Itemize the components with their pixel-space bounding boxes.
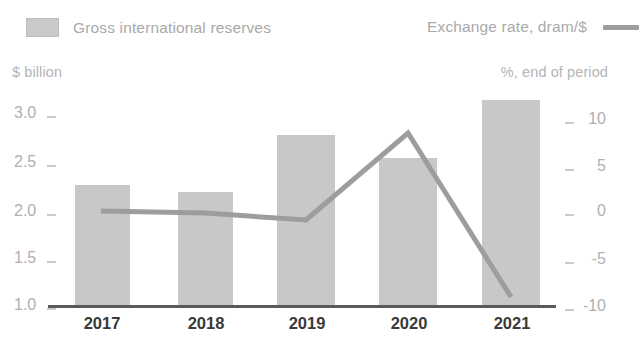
exchange-rate-polyline [101,133,511,297]
category-label-2017: 2017 [84,314,121,333]
category-label-2021: 2021 [494,314,531,333]
axis-baseline [48,305,556,308]
category-label-2019: 2019 [289,314,326,333]
category-label-2018: 2018 [188,314,225,333]
category-label-2020: 2020 [391,314,428,333]
